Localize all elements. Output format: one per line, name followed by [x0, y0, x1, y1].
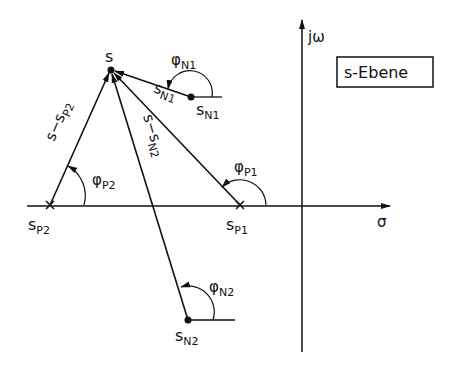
point-s [108, 67, 115, 74]
vector-label-s-minus-sn1: sN1 [151, 79, 180, 106]
pole2-label: sP2 [28, 215, 50, 237]
zero2-label: sN2 [175, 326, 199, 348]
pole1-label: sP1 [226, 215, 248, 237]
pole2-marker [46, 201, 54, 209]
imag-axis-label: jω [307, 28, 325, 46]
angle-label-p2: φP2 [92, 171, 116, 192]
zero2-marker [185, 317, 192, 324]
plane-title: s-Ebene [344, 63, 408, 82]
vector-label-s-minus-sp2: s−sP2 [41, 98, 77, 145]
angle-arc-p2 [68, 166, 85, 205]
pole1-marker [236, 201, 244, 209]
zero1-marker [188, 94, 195, 101]
point-s-label: s [105, 47, 113, 66]
angle-label-p1: φP1 [234, 158, 258, 179]
vector-label-s-minus-sn2: s−sN2 [136, 112, 169, 160]
angle-label-n2: φN2 [209, 278, 234, 299]
real-axis-label: σ [377, 213, 387, 231]
s-plane-diagram: jω σ s-Ebene s sP2 sP1 sN1 sN2 s−sP2 s−s… [0, 0, 456, 369]
angle-label-n1: φN1 [171, 51, 196, 72]
zero1-label: sN1 [196, 100, 220, 122]
